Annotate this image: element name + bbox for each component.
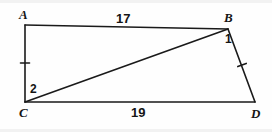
geometry-figure: A B C D 17 19 1 2 [0,0,272,132]
vertex-label-a: A [19,8,28,21]
side-length-label-ab: 17 [116,12,130,25]
vertex-label-b: B [224,11,233,24]
angle-label-2: 2 [30,83,37,95]
vertex-label-d: D [251,107,260,120]
vertex-label-c: C [19,106,28,119]
segment-cb-diagonal [25,29,228,102]
segment-group [25,25,255,102]
angle-label-1: 1 [225,33,232,45]
side-length-label-cd: 19 [131,106,145,119]
